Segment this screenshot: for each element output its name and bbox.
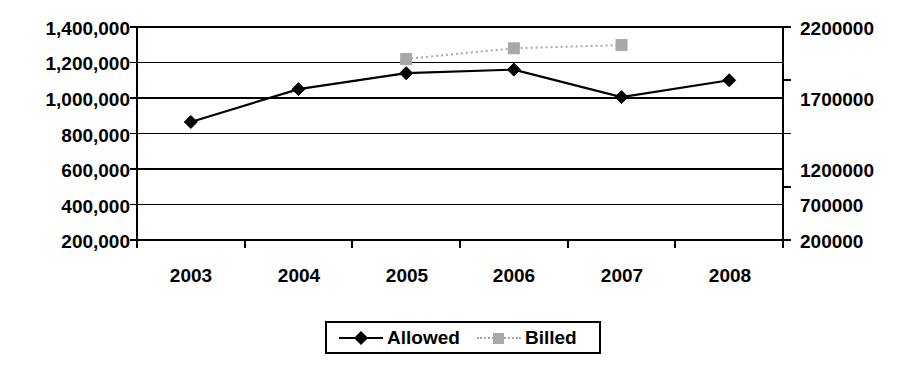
legend-item-billed: Billed [477, 323, 577, 352]
legend-item-allowed: Allowed [339, 323, 460, 352]
axis-tick-marks [130, 27, 791, 248]
diamond-marker-icon [339, 331, 383, 345]
data-series-layer [184, 40, 735, 129]
gridlines [137, 27, 783, 240]
legend-label-billed: Billed [525, 327, 577, 349]
line-chart: 1,400,000 1,200,000 1,000,000 800,000 60… [0, 0, 907, 381]
legend: Allowed Billed [325, 321, 601, 354]
square-marker-icon [477, 331, 521, 345]
legend-label-allowed: Allowed [387, 327, 460, 349]
